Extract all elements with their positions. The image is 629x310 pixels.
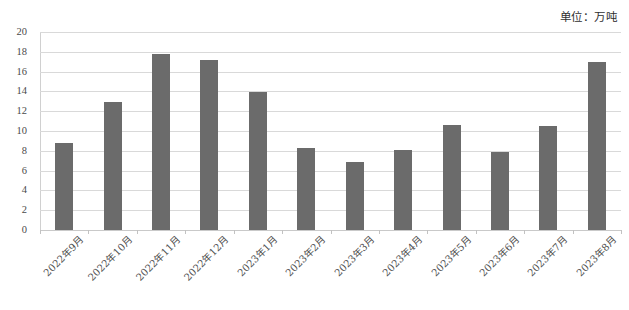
bar bbox=[104, 102, 122, 230]
y-tick-label-16: 16 bbox=[1, 67, 27, 77]
plot-area: 20181614121086420 bbox=[40, 32, 621, 230]
y-tick-label-14: 14 bbox=[1, 86, 27, 96]
y-tick-label-20: 20 bbox=[1, 27, 27, 37]
x-axis-label: 2023年8月 bbox=[574, 234, 618, 278]
x-axis-label: 2022年12月 bbox=[182, 234, 231, 283]
x-axis-label: 2022年11月 bbox=[134, 234, 183, 283]
bars-layer bbox=[40, 32, 621, 230]
y-tick-label-4: 4 bbox=[1, 185, 27, 195]
y-tick-label-2: 2 bbox=[1, 205, 27, 215]
x-axis-label: 2023年5月 bbox=[429, 234, 473, 278]
y-tick-label-6: 6 bbox=[1, 166, 27, 176]
bar bbox=[539, 126, 557, 230]
y-tick-label-10: 10 bbox=[1, 126, 27, 136]
bar bbox=[152, 54, 170, 230]
bar-chart: 单位：万吨 20181614121086420 2022年9月2022年10月2… bbox=[0, 0, 629, 310]
bar bbox=[55, 143, 73, 230]
y-tick-label-12: 12 bbox=[1, 106, 27, 116]
x-axis-label: 2023年1月 bbox=[235, 234, 279, 278]
bar bbox=[200, 60, 218, 230]
x-axis-label: 2022年9月 bbox=[42, 234, 86, 278]
bar bbox=[346, 162, 364, 230]
x-axis-label: 2023年4月 bbox=[380, 234, 424, 278]
bar bbox=[443, 125, 461, 230]
y-tick-label-18: 18 bbox=[1, 47, 27, 57]
y-tick-label-8: 8 bbox=[1, 146, 27, 156]
x-axis-label: 2023年2月 bbox=[284, 234, 328, 278]
bar bbox=[588, 62, 606, 230]
x-axis-label: 2022年10月 bbox=[85, 234, 134, 283]
bar bbox=[491, 152, 509, 230]
unit-caption: 单位：万吨 bbox=[560, 8, 618, 24]
bar bbox=[249, 92, 267, 230]
bar bbox=[297, 148, 315, 230]
x-axis-label: 2023年3月 bbox=[332, 234, 376, 278]
x-axis-label: 2023年6月 bbox=[477, 234, 521, 278]
x-axis-label: 2023年7月 bbox=[526, 234, 570, 278]
x-axis-labels: 2022年9月2022年10月2022年11月2022年12月2023年1月20… bbox=[0, 234, 629, 310]
bar bbox=[394, 150, 412, 230]
